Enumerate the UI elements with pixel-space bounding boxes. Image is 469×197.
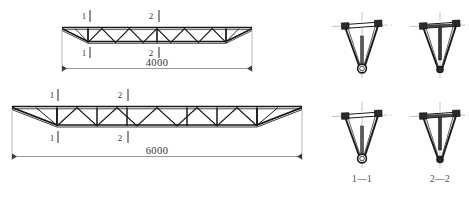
section-mark-1-bottom-6000-label: 1 [50,133,55,143]
section-mark-1-top-6000: 1 [50,89,58,101]
section-mark-2-top-4000: 2 [149,10,159,22]
section-mark-1-bottom-6000: 1 [50,131,58,143]
section-mark-2-top-6000: 2 [118,89,128,101]
bottom-chord-node [437,66,443,72]
drawing-sheet: 1 2 1 2 4000 [0,0,469,197]
section-2-2-caption: 2—2 [430,174,450,184]
section-mark-1-top-6000-label: 1 [50,90,55,100]
central-gusset [361,36,364,65]
central-gusset [438,27,441,60]
central-gusset [361,126,364,155]
dimension-6000-label: 6000 [146,145,169,156]
section-mark-1-top-4000-label: 1 [82,11,87,21]
section-mark-2-bottom-6000: 2 [118,131,128,143]
end-diagonals-6000 [12,108,302,126]
bottom-chord-tube [358,64,367,73]
central-gusset [438,117,441,150]
section-mark-2-bottom-6000-label: 2 [118,133,123,143]
section-mark-1-bottom-4000: 1 [82,47,90,58]
section-1-1-caption: 1—1 [352,174,372,184]
section-1-1-lower: 1—1 [332,102,392,184]
section-2-2-upper [410,12,469,78]
section-mark-2-top-6000-label: 2 [118,90,123,100]
section-mark-1-top-4000: 1 [82,10,90,22]
section-mark-2-top-4000-label: 2 [149,11,154,21]
section-1-1-upper [332,12,392,78]
truss-drawing-canvas: 1 2 1 2 4000 [0,0,469,197]
bottom-chord-node [437,156,443,162]
elevation-truss-6000: 1 2 1 2 6000 [12,89,302,160]
dimension-4000-label: 4000 [146,57,169,68]
dimension-6000: 6000 [12,109,302,160]
bottom-chord-tube [358,154,367,163]
elevation-truss-4000: 1 2 1 2 4000 [62,10,252,72]
web-members-6000 [57,108,257,126]
section-2-2-lower: 2—2 [410,102,469,184]
section-mark-1-bottom-4000-label: 1 [82,48,87,58]
